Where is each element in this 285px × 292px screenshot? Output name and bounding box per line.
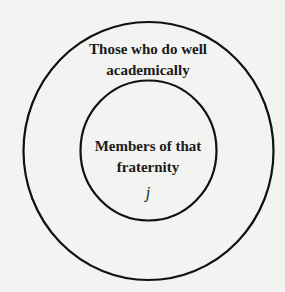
venn-diagram: Those who do well academically Members o…	[0, 0, 285, 292]
outer-set-label: Those who do well academically	[48, 39, 248, 81]
element-j: j	[138, 184, 158, 202]
inner-label-line2: fraternity	[48, 157, 248, 178]
outer-label-line2: academically	[48, 60, 248, 81]
inner-set-label: Members of that fraternity	[48, 136, 248, 178]
inner-label-line1: Members of that	[48, 136, 248, 157]
outer-label-line1: Those who do well	[48, 39, 248, 60]
